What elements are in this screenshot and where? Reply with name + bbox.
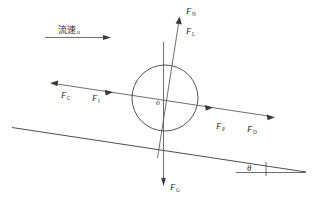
- force-normal-subscript: N: [192, 11, 196, 17]
- force-normal-label: F: [185, 6, 192, 16]
- gravity-arrowhead: [161, 178, 166, 186]
- force-cohesion-subscript: C: [67, 95, 71, 101]
- downslope-arrowhead: [267, 115, 275, 121]
- force-diagram-svg: 流速 u F N F L F C F f F P F D F G o θ: [0, 0, 314, 204]
- force-friction-label: F: [91, 93, 98, 103]
- upslope-arrowhead: [50, 81, 58, 87]
- force-friction-subscript: f: [98, 98, 100, 104]
- force-drag-label: F: [246, 124, 253, 134]
- force-gravity-subscript: G: [176, 187, 180, 193]
- particle-circle: [132, 65, 198, 131]
- flow-velocity-symbol: u: [77, 29, 80, 35]
- force-pressure-subscript: P: [222, 126, 225, 132]
- normal-axis-line: [158, 24, 179, 158]
- friction-arrowhead: [105, 90, 113, 96]
- flow-arrowhead: [103, 35, 111, 40]
- circle-center-label: o: [156, 98, 160, 107]
- force-cohesion-label: F: [60, 90, 67, 100]
- flow-velocity-label: 流速: [58, 24, 76, 35]
- normal-arrowhead: [176, 17, 182, 25]
- slope-angle-label: θ: [247, 163, 252, 173]
- force-lift-label: F: [185, 26, 192, 36]
- force-gravity-label: F: [169, 182, 176, 192]
- slope-parallel-axis-line: [57, 84, 268, 116]
- force-drag-subscript: D: [253, 129, 257, 135]
- force-lift-subscript: L: [192, 31, 195, 37]
- pressure-arrowhead: [205, 105, 213, 111]
- force-pressure-label: F: [215, 121, 222, 131]
- force-diagram-canvas: 流速 u F N F L F C F f F P F D F G o θ: [0, 0, 314, 204]
